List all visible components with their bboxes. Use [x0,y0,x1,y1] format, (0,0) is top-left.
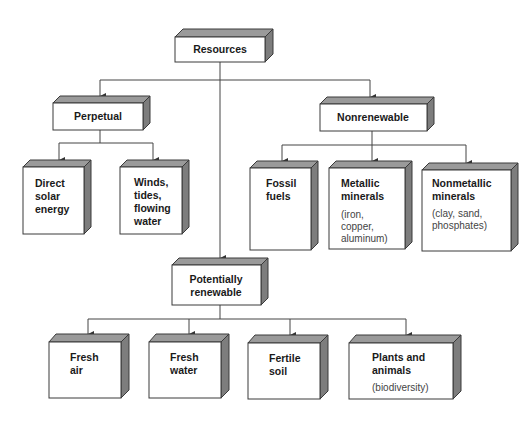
note-aluminum: aluminum) [341,233,388,244]
label-resources: Resources [193,43,247,55]
box-fossil-fuels: Fossil fuels [250,161,318,250]
box-nonrenewable: Nonrenewable [320,97,434,131]
label-animals: animals [372,364,411,376]
label-fuels: fuels [266,190,291,202]
label-flowing: flowing [134,202,171,214]
label-fresh: Fresh [70,351,99,363]
note-copper: copper, [341,221,374,232]
label-tides: tides, [134,189,162,201]
label-water-2: water [169,364,197,376]
label-direct: Direct [35,177,65,189]
label-fresh-2: Fresh [170,351,199,363]
note-clay-sand: (clay, sand, [432,208,482,219]
label-minerals: minerals [341,190,384,202]
box-fertile-soil: Fertile soil [248,335,328,399]
label-potentially: Potentially [189,273,242,285]
box-resources: Resources [175,29,273,62]
label-plants-and: Plants and [372,351,425,363]
box-fresh-air: Fresh air [49,334,129,398]
label-metallic: Metallic [341,177,380,189]
label-fertile: Fertile [269,352,301,364]
box-metallic-minerals: Metallic minerals (iron, copper, aluminu… [329,161,412,249]
box-nonmetallic-minerals: Nonmetallic minerals (clay, sand, phosph… [422,163,518,251]
box-plants-and-animals: Plants and animals (biodiversity) [349,335,461,399]
label-fossil: Fossil [266,177,296,189]
label-solar: solar [35,190,60,202]
label-renewable: renewable [190,286,242,298]
label-winds: Winds, [134,176,168,188]
box-direct-solar-energy: Direct solar energy [23,160,91,234]
label-minerals-2: minerals [432,190,475,202]
label-perpetual: Perpetual [74,110,122,122]
label-water: water [133,215,161,227]
box-winds-tides-flowing-water: Winds, tides, flowing water [120,160,189,234]
box-fresh-water: Fresh water [149,334,229,398]
label-nonrenewable: Nonrenewable [337,111,409,123]
note-biodiversity: (biodiversity) [372,382,429,393]
box-potentially-renewable: Potentially renewable [172,258,268,305]
label-nonmetallic: Nonmetallic [432,177,492,189]
label-air: air [70,364,83,376]
box-perpetual: Perpetual [53,96,150,130]
label-energy: energy [35,203,70,215]
note-iron: (iron, [341,209,364,220]
label-soil: soil [269,365,287,377]
note-phosphates: phosphates) [432,220,487,231]
resource-classification-diagram: Resources Perpetual Nonrenewable Direct … [0,0,527,425]
